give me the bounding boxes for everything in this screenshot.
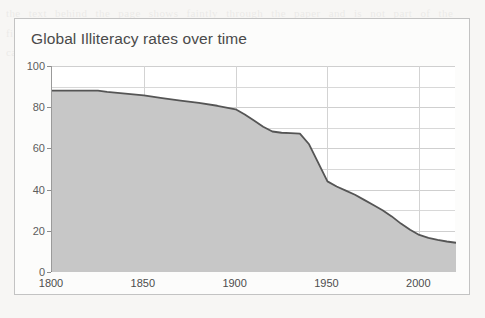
y-tick-mark-100 (47, 66, 51, 67)
area-series-illiteracy (52, 66, 456, 272)
x-tick-label-1800: 1800 (39, 277, 63, 289)
x-tick-label-1950: 1950 (314, 277, 338, 289)
x-tick-label-1900: 1900 (222, 277, 246, 289)
plot-wrapper: 020406080100 18001850190019502000 (51, 66, 455, 272)
chart-figure-frame: Global Illiteracy rates over time 020406… (14, 18, 470, 295)
y-tick-mark-20 (47, 231, 51, 232)
y-tick-label-100: 100 (27, 60, 45, 72)
y-tick-label-40: 40 (33, 184, 45, 196)
chart-title: Global Illiteracy rates over time (31, 30, 247, 48)
y-tick-mark-0 (47, 272, 51, 273)
x-tick-label-2000: 2000 (406, 277, 430, 289)
series-fill-path (52, 91, 456, 272)
y-tick-mark-40 (47, 190, 51, 191)
y-tick-label-60: 60 (33, 142, 45, 154)
y-tick-label-80: 80 (33, 101, 45, 113)
y-tick-mark-80 (47, 107, 51, 108)
y-tick-mark-60 (47, 148, 51, 149)
y-tick-label-20: 20 (33, 225, 45, 237)
x-tick-label-1850: 1850 (131, 277, 155, 289)
plot-area (51, 66, 455, 272)
